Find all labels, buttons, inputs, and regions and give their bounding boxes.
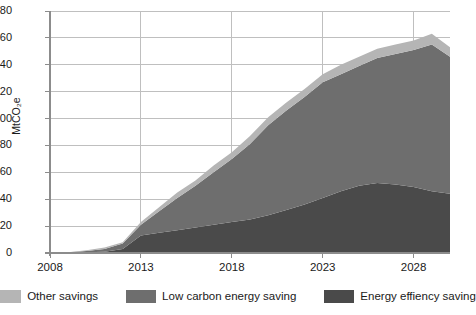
chart-legend: Other savingsLow carbon energy savingEne…	[0, 286, 467, 306]
legend-item[interactable]: Low carbon energy saving	[126, 290, 296, 303]
legend-swatch	[324, 290, 354, 303]
legend-item[interactable]: Energy effiency saving	[324, 290, 476, 303]
legend-swatch	[126, 290, 156, 303]
legend-label: Low carbon energy saving	[162, 290, 296, 302]
area-series-group	[50, 34, 450, 253]
legend-label: Energy effiency saving	[360, 290, 476, 302]
legend-swatch	[0, 290, 21, 303]
legend-label: Other savings	[27, 290, 98, 302]
legend-item[interactable]: Other savings	[0, 290, 98, 303]
